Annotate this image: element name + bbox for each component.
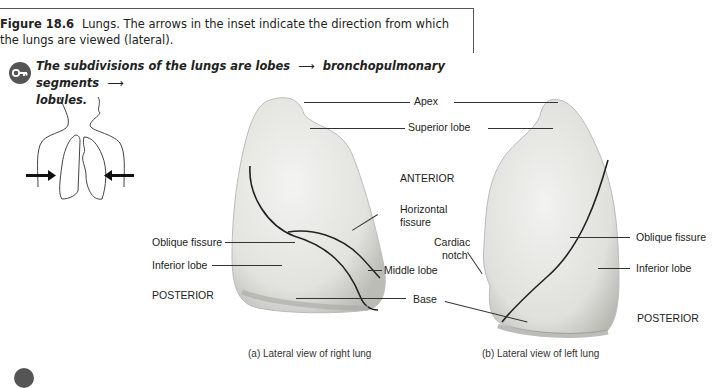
leader-line (296, 298, 406, 299)
leader-line (598, 268, 630, 269)
arrow-icon: ⟶ (107, 76, 124, 90)
left-lung-illustration (478, 96, 628, 346)
label-inferior-lobe-right: Inferior lobe (152, 259, 207, 272)
right-lung-illustration (228, 96, 398, 316)
leader-line (368, 270, 382, 271)
leader-line (570, 237, 630, 238)
leader-line (304, 102, 410, 103)
label-posterior-right: POSTERIOR (152, 289, 214, 302)
subcaption-a: (a) Lateral view of right lung (248, 348, 371, 359)
key-icon (14, 368, 34, 388)
leader-line (225, 242, 295, 243)
subcaption-b: (b) Lateral view of left lung (482, 348, 599, 359)
label-oblique-fissure-left: Oblique fissure (636, 231, 706, 244)
leader-line (488, 128, 553, 129)
figure-caption: Figure 18.6Lungs. The arrows in the inse… (0, 16, 470, 48)
label-posterior-left: POSTERIOR (637, 312, 699, 325)
key-point-part1: The subdivisions of the lungs are lobes (36, 59, 290, 73)
leader-line (212, 265, 282, 266)
label-cardiac-notch: Cardiac notch (434, 236, 470, 262)
label-oblique-fissure-right: Oblique fissure (152, 236, 222, 249)
torso-inset-icon (20, 95, 140, 205)
label-base: Base (413, 293, 437, 306)
label-middle-lobe: Middle lobe (384, 264, 438, 277)
arrow-icon: ⟶ (298, 59, 315, 73)
label-horizontal-fissure: Horizontal fissure (400, 203, 447, 229)
label-anterior: ANTERIOR (400, 172, 454, 185)
label-inferior-lobe-left: Inferior lobe (636, 262, 691, 275)
leader-line (454, 102, 558, 103)
label-apex: Apex (414, 95, 438, 108)
leader-line (310, 128, 405, 129)
figure-label: Figure 18.6 (0, 17, 74, 31)
label-superior-lobe: Superior lobe (408, 121, 470, 134)
